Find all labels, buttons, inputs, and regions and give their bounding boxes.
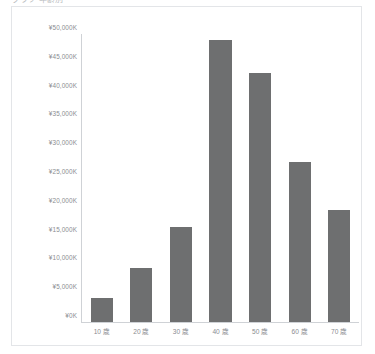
bar-column[interactable]: 50 歳 xyxy=(240,34,280,322)
y-axis-tick-label: ¥20,000K xyxy=(49,196,77,203)
bar[interactable] xyxy=(209,40,231,322)
bar[interactable] xyxy=(91,298,113,322)
bar-column[interactable]: 10 歳 xyxy=(82,34,122,322)
chart-card: ¥0K¥5,000K¥10,000K¥15,000K¥20,000K¥25,00… xyxy=(11,6,362,346)
chart-screenshot: グラフ 年齢別 ¥0K¥5,000K¥10,000K¥15,000K¥20,00… xyxy=(0,0,375,354)
x-axis-tick-label: 10 歳 xyxy=(94,328,110,336)
y-axis-tick-label: ¥35,000K xyxy=(49,110,77,117)
y-axis-tick-label: ¥5,000K xyxy=(52,283,77,290)
bar-column[interactable]: 60 歳 xyxy=(280,34,320,322)
bar[interactable] xyxy=(170,227,192,322)
x-axis-tick-label: 20 歳 xyxy=(133,328,149,336)
x-axis-tick-label: 60 歳 xyxy=(292,328,308,336)
bar-column[interactable]: 70 歳 xyxy=(319,34,359,322)
y-axis-tick-label: ¥40,000K xyxy=(49,81,77,88)
x-axis-tick-label: 70 歳 xyxy=(331,328,347,336)
y-axis-tick-label: ¥0K xyxy=(65,312,77,319)
bar-column[interactable]: 20 歳 xyxy=(122,34,162,322)
x-axis-tick-label: 50 歳 xyxy=(252,328,268,336)
clipped-title-text: グラフ 年齢別 xyxy=(12,0,212,4)
bar[interactable] xyxy=(328,210,350,322)
bar[interactable] xyxy=(130,268,152,322)
bar[interactable] xyxy=(289,162,311,322)
y-axis-tick-label: ¥10,000K xyxy=(49,254,77,261)
bar-column[interactable]: 30 歳 xyxy=(161,34,201,322)
bar-chart-plot-area: ¥0K¥5,000K¥10,000K¥15,000K¥20,000K¥25,00… xyxy=(81,34,359,323)
x-axis-tick-label: 30 歳 xyxy=(173,328,189,336)
y-axis-tick-label: ¥25,000K xyxy=(49,168,77,175)
x-axis-tick-label: 40 歳 xyxy=(212,328,228,336)
y-axis-tick-label: ¥30,000K xyxy=(49,139,77,146)
y-axis-tick-label: ¥50,000K xyxy=(49,24,77,31)
y-axis-tick-label: ¥15,000K xyxy=(49,225,77,232)
bar[interactable] xyxy=(249,73,271,322)
y-axis-tick-label: ¥45,000K xyxy=(49,52,77,59)
bar-column[interactable]: 40 歳 xyxy=(201,34,241,322)
